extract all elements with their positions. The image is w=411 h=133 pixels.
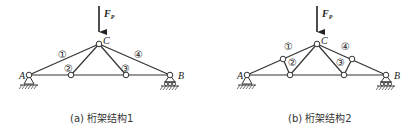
node-label-C: C xyxy=(103,35,110,46)
node-label-B: B xyxy=(178,70,184,81)
joint-C xyxy=(314,41,320,47)
member-C-joint2 xyxy=(71,44,99,75)
node-label-A: A xyxy=(236,70,244,81)
member-number-1: ① xyxy=(284,41,293,52)
load-label: FP xyxy=(321,8,333,20)
node-label-B: B xyxy=(394,70,400,81)
member-number-3: ③ xyxy=(121,63,130,74)
joint-bottom-left xyxy=(287,72,293,78)
truss-structure-1: FP xyxy=(18,6,184,90)
load-label: FP xyxy=(103,8,115,20)
member-number-4: ④ xyxy=(134,49,143,60)
member-number-1: ① xyxy=(58,49,67,60)
truss-structure-2: FP xyxy=(236,6,400,90)
caption-figure-b: (b) 桁架结构2 xyxy=(288,110,352,125)
node-label-C: C xyxy=(321,35,328,46)
joint-bottom-right xyxy=(341,72,347,78)
member-number-3: ③ xyxy=(336,57,345,68)
member-number-4: ④ xyxy=(341,41,350,52)
node-label-A: A xyxy=(18,70,26,81)
joint-upper-left xyxy=(280,56,286,62)
joint-C xyxy=(96,41,102,47)
joint-upper-right xyxy=(349,56,355,62)
member-number-2: ② xyxy=(288,57,297,68)
caption-figure-a: (a) 桁架结构1 xyxy=(70,110,133,125)
member-number-2: ② xyxy=(64,63,73,74)
